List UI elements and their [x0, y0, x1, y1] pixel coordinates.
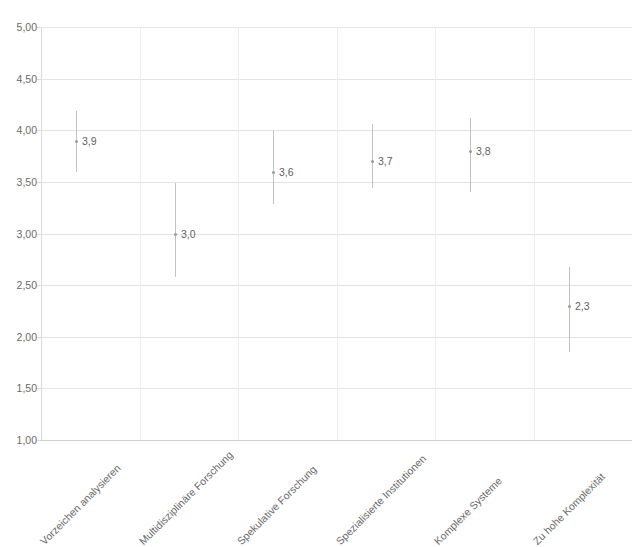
gridline-x: [435, 27, 436, 440]
data-point-marker: [371, 160, 374, 163]
data-point-label: 3,6: [279, 167, 294, 177]
y-tick-mark: [37, 388, 41, 389]
y-tick-mark: [37, 337, 41, 338]
data-point-label: 3,0: [181, 229, 196, 239]
plot-area: 3,93,03,63,73,82,3: [41, 27, 632, 440]
x-tick-label: Multidisziplinäre Forschung: [137, 449, 235, 547]
data-point-label: 2,3: [575, 301, 590, 311]
y-axis-ticks: 5,004,504,003,503,002,502,001,501,00: [0, 27, 37, 440]
y-tick-label: 2,00: [3, 332, 37, 342]
y-tick-label: 3,00: [3, 229, 37, 239]
x-tick-label: Spekulative Forschung: [235, 464, 318, 547]
data-point-marker: [174, 233, 177, 236]
y-tick-label: 5,00: [3, 22, 37, 32]
gridline-x: [238, 27, 239, 440]
error-bar: [175, 183, 176, 277]
y-tick-mark: [37, 234, 41, 235]
y-tick-mark: [37, 182, 41, 183]
error-bar: [569, 267, 570, 353]
gridline-x: [337, 27, 338, 440]
data-point-marker: [272, 171, 275, 174]
x-tick-label: Spezialisierte Institutionen: [334, 453, 428, 547]
y-tick-label: 3,50: [3, 177, 37, 187]
data-point-label: 3,9: [82, 136, 97, 146]
gridline-x: [140, 27, 141, 440]
error-bar: [372, 124, 373, 188]
y-tick-label: 4,50: [3, 74, 37, 84]
y-tick-mark: [37, 79, 41, 80]
chart-container: 3,93,03,63,73,82,3 5,004,504,003,503,002…: [0, 0, 637, 547]
data-point-marker: [469, 150, 472, 153]
x-tick-label: Vorzeichen analysieren: [38, 462, 123, 547]
y-tick-mark: [37, 285, 41, 286]
y-tick-label: 2,50: [3, 280, 37, 290]
y-tick-label: 1,50: [3, 383, 37, 393]
data-point-label: 3,8: [476, 146, 491, 156]
data-point-marker: [75, 140, 78, 143]
y-tick-label: 4,00: [3, 125, 37, 135]
x-axis-labels: Vorzeichen analysierenMultidisziplinäre …: [0, 440, 637, 547]
data-point-label: 3,7: [378, 156, 393, 166]
error-bar: [273, 130, 274, 203]
x-tick-label: Zu hohe Komplexität: [531, 471, 607, 547]
error-bar: [470, 118, 471, 192]
data-point-marker: [568, 305, 571, 308]
gridline-x: [534, 27, 535, 440]
x-tick-label: Komplexe Systeme: [432, 475, 504, 547]
y-tick-mark: [37, 130, 41, 131]
y-tick-mark: [37, 27, 41, 28]
chart-title-clipped: [0, 0, 637, 5]
